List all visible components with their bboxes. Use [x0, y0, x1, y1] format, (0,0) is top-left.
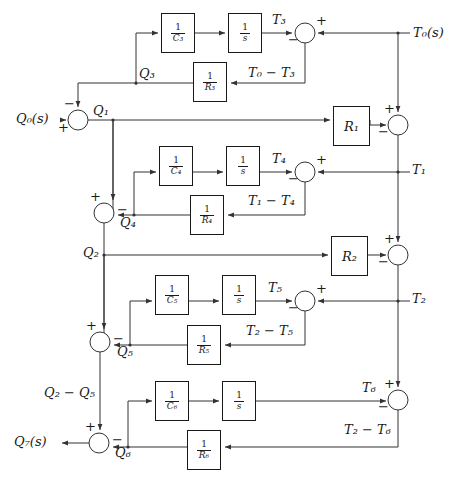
signal-label-q5: Q₅: [117, 345, 133, 358]
sign-minus-t4: −: [288, 172, 299, 185]
summing-junction-q5: [90, 332, 110, 352]
sign-plus-t1: +: [384, 102, 395, 115]
summing-junction-t2: [388, 245, 408, 265]
signal-label-t0s: T₀(s): [413, 26, 444, 39]
sign-minus-t2: −: [378, 255, 389, 268]
signal-label-q2: Q₂: [83, 246, 99, 259]
signal-label-q6: Q₆: [115, 446, 131, 459]
summing-junction-q6: [89, 433, 109, 453]
sign-plus-q5: +: [86, 319, 97, 332]
sign-minus-q1: −: [64, 97, 75, 110]
sign-plus-q6: +: [85, 420, 96, 433]
sign-plus-q1: +: [58, 121, 69, 134]
summing-junction-t6: [388, 390, 408, 410]
sign-minus-t6: −: [378, 400, 389, 413]
sign-plus-t3: +: [316, 14, 327, 27]
summing-junction-q1: [68, 110, 88, 130]
sign-plus-t6: +: [384, 377, 395, 390]
signal-label-q4: Q₄: [120, 216, 136, 229]
signal-label-q1: Q₁: [93, 104, 109, 117]
signal-label-t4: T₄: [272, 152, 286, 165]
signal-label-t1-minus-t4: T₁ − T₄: [248, 194, 295, 207]
signal-label-q0s: Q₀(s): [16, 112, 49, 125]
summing-junction-t1: [388, 115, 408, 135]
sign-minus-t3: −: [288, 33, 299, 46]
signal-label-t0-minus-t3: T₀ − T₃: [248, 66, 295, 79]
sign-minus-t1: −: [378, 125, 389, 138]
signal-label-q3: Q₃: [139, 67, 155, 80]
sign-plus-q4: +: [90, 190, 101, 203]
block-diagram-canvas: 1C₃ 1s 1R₃ R₁ 1C₄ 1s 1R₄ R₂ 1C₅ 1s 1R₅ 1…: [0, 0, 463, 480]
signal-label-t5: T₅: [268, 281, 282, 294]
signal-label-t2-minus-t6: T₂ − T₆: [344, 423, 391, 436]
summing-junction-q4: [94, 203, 114, 223]
signal-label-t6: T₆: [362, 381, 376, 394]
sign-minus-t5: −: [288, 301, 299, 314]
signal-label-t3: T₃: [272, 13, 286, 26]
signal-label-t2-minus-t5: T₂ − T₅: [246, 324, 293, 337]
signal-label-q2-minus-q5: Q₂ − Q₅: [44, 386, 95, 399]
signal-label-t2: T₂: [412, 292, 426, 305]
sign-plus-t2: +: [384, 232, 395, 245]
signal-label-t1: T₁: [412, 163, 426, 176]
sign-plus-t5: +: [316, 282, 327, 295]
sign-plus-t4: +: [316, 153, 327, 166]
signal-label-q7s: Q₇(s): [14, 435, 47, 448]
